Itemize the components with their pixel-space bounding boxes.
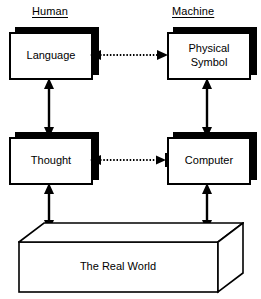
node-language[interactable]: Language [9,32,93,80]
column-header-machine: Machine [172,5,214,17]
node-language-label: Language [27,49,76,63]
node-physical-symbol-label: Physical Symbol [189,42,230,70]
node-face: Computer [167,137,251,185]
connector-physical-symbol-computer [200,78,214,138]
node-face: Thought [9,137,93,185]
realworld-3d-shape [18,222,244,294]
node-realworld-label: The Real World [18,260,218,272]
node-thought-label: Thought [31,154,71,168]
connector-language-physical-symbol [90,48,168,62]
node-realworld[interactable]: The Real World [18,222,244,294]
node-face: Physical Symbol [167,32,251,80]
diagram-canvas: Human Machine Language Physical Symbol T… [0,0,261,299]
node-computer-label: Computer [185,154,233,168]
node-thought[interactable]: Thought [9,137,93,185]
connector-language-thought [42,78,56,138]
node-computer[interactable]: Computer [167,137,251,185]
node-physical-symbol[interactable]: Physical Symbol [167,32,251,80]
connector-thought-computer [90,153,168,167]
node-face: Language [9,32,93,80]
column-header-human: Human [32,5,68,17]
